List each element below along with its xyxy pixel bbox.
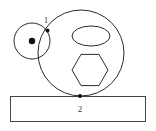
wheel-drum-contact-dot [46, 29, 50, 33]
label-base-plate: 2 [78, 104, 83, 114]
small-wheel-hub-dot [29, 38, 35, 44]
figure-canvas: 1 2 [0, 0, 156, 131]
technical-drawing-figure: 1 2 [0, 0, 156, 131]
large-drum-circle [38, 10, 124, 96]
label-small-wheel: 1 [44, 15, 49, 25]
drum-window-ellipse [72, 26, 110, 46]
drum-hexagon-bore [72, 54, 108, 85]
drum-base-contact-dot [78, 94, 82, 98]
